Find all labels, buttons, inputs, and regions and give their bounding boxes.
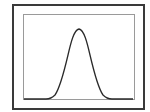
bell-curve (0, 0, 150, 112)
curve-line (24, 29, 133, 99)
